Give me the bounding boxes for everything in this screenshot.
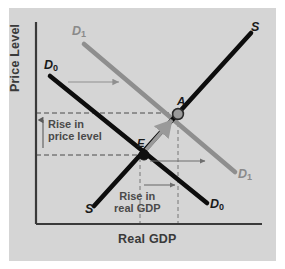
curve-label-d1-lower-sub: 1 (247, 172, 252, 182)
curve-label-d0-lower: D0 (210, 198, 224, 212)
curve-supply (94, 33, 251, 206)
curve-label-d0-lower-text: D (210, 197, 219, 211)
annotation-price-rise-line1: Rise in (48, 118, 102, 130)
annotation-price-rise-line2: price level (48, 130, 102, 142)
curve-label-d1-lower: D1 (238, 168, 252, 182)
curve-label-d0-upper-sub: 0 (53, 63, 58, 73)
movement-along-supply-arrow (146, 120, 172, 150)
annotation-price-rise: Rise in price level (48, 118, 102, 143)
curve-label-supply-upper-text: S (251, 20, 259, 34)
curve-label-d0-upper-text: D (44, 58, 53, 72)
curve-label-supply-lower-text: S (85, 202, 93, 216)
point-label-a-text: A (177, 95, 185, 107)
figure-container: D1 D0 S D1 D0 S E A Rise in price level … (0, 0, 285, 269)
y-axis-title: Price Level (9, 24, 22, 92)
x-axis-title: Real GDP (118, 233, 177, 246)
curve-label-d0-lower-sub: 0 (219, 202, 224, 212)
point-a-marker (173, 109, 184, 120)
curve-d1 (84, 44, 235, 172)
curve-label-d1-upper-text: D (72, 24, 81, 38)
curve-label-d1-upper-sub: 1 (81, 29, 86, 39)
curve-label-supply-lower: S (85, 203, 93, 216)
chart-canvas (0, 0, 285, 269)
point-label-e-text: E (137, 137, 145, 149)
point-label-e: E (137, 138, 145, 150)
curve-label-d1-lower-text: D (238, 167, 247, 181)
annotation-gdp-rise-line1: Rise in (114, 190, 160, 202)
curve-label-supply-upper: S (251, 21, 259, 34)
point-label-a: A (177, 96, 185, 108)
point-e-marker (139, 150, 149, 160)
annotation-gdp-rise: Rise in real GDP (114, 190, 160, 215)
curve-label-d1-upper: D1 (72, 25, 86, 39)
curve-label-d0-upper: D0 (44, 59, 58, 73)
annotation-gdp-rise-line2: real GDP (114, 202, 160, 214)
